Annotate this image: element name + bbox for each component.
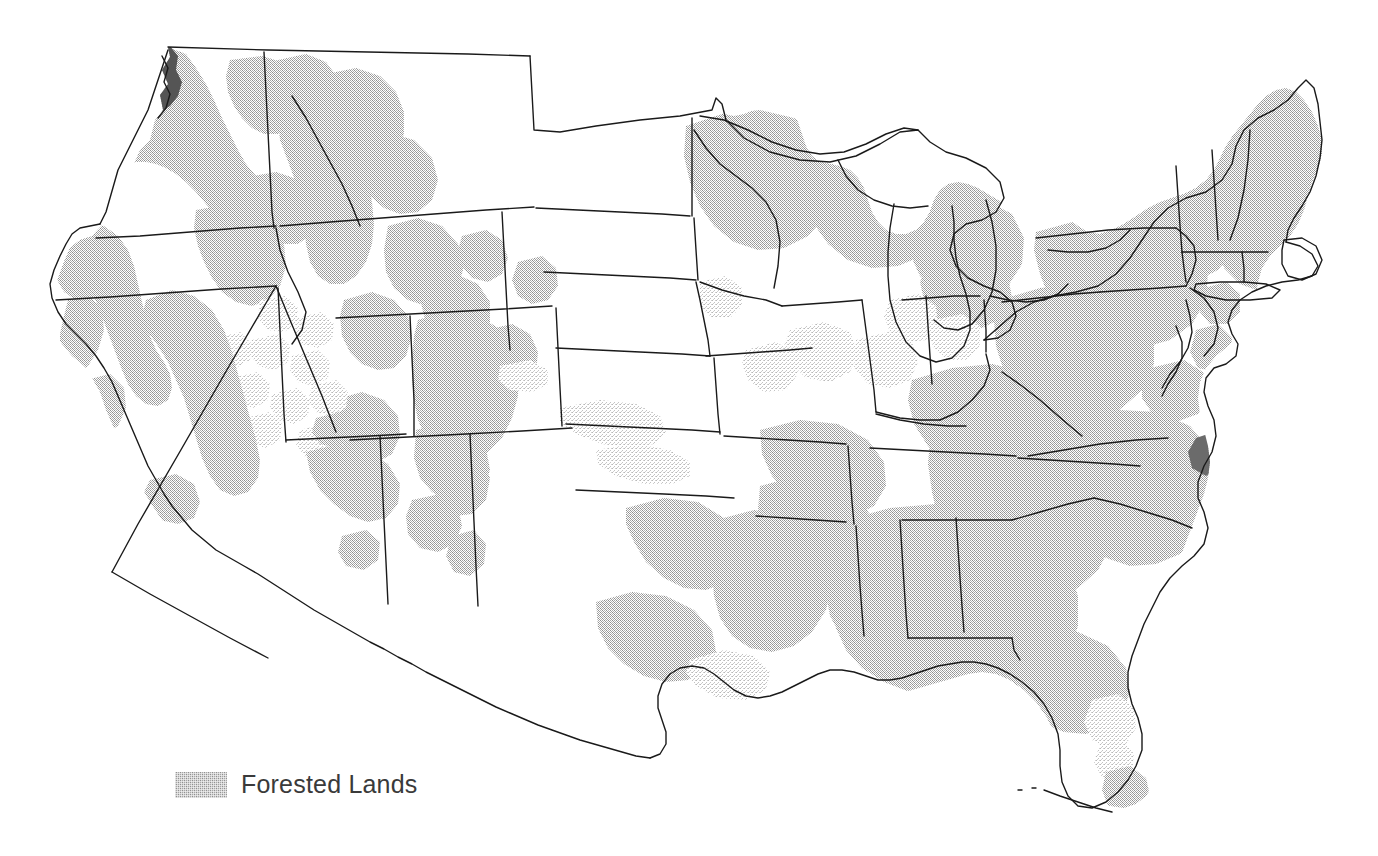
map-legend: Forested Lands (175, 770, 418, 799)
legend-label: Forested Lands (241, 770, 418, 799)
forested-lands-map: Forested Lands (0, 0, 1378, 856)
map-canvas (0, 0, 1378, 856)
forested-lands-swatch (175, 772, 227, 798)
